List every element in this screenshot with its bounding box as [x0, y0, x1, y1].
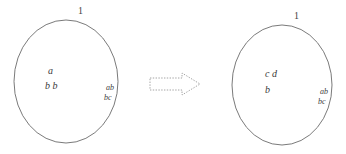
left-ellipse-edge-label-2: bc: [104, 94, 112, 102]
diagram-canvas: 1 a b b ab bc 1 c d b ab bc: [0, 0, 346, 154]
left-ellipse-outline: [14, 20, 118, 143]
left-ellipse-edge-label-1: ab: [106, 84, 114, 92]
diagram-vector-layer: [0, 0, 346, 154]
right-ellipse-outline: [232, 25, 332, 145]
right-ellipse-inner-label-1: c d: [265, 69, 277, 79]
right-ellipse-top-label: 1: [294, 11, 299, 21]
left-ellipse-inner-label-1: a: [48, 66, 53, 76]
transition-arrow-shape: [150, 73, 200, 95]
left-ellipse-top-label: 1: [78, 6, 83, 16]
right-ellipse-edge-label-2: bc: [318, 98, 326, 106]
right-ellipse-edge-label-1: ab: [320, 88, 328, 96]
right-ellipse-inner-label-2: b: [265, 85, 270, 95]
left-ellipse-inner-label-2: b b: [45, 81, 58, 91]
